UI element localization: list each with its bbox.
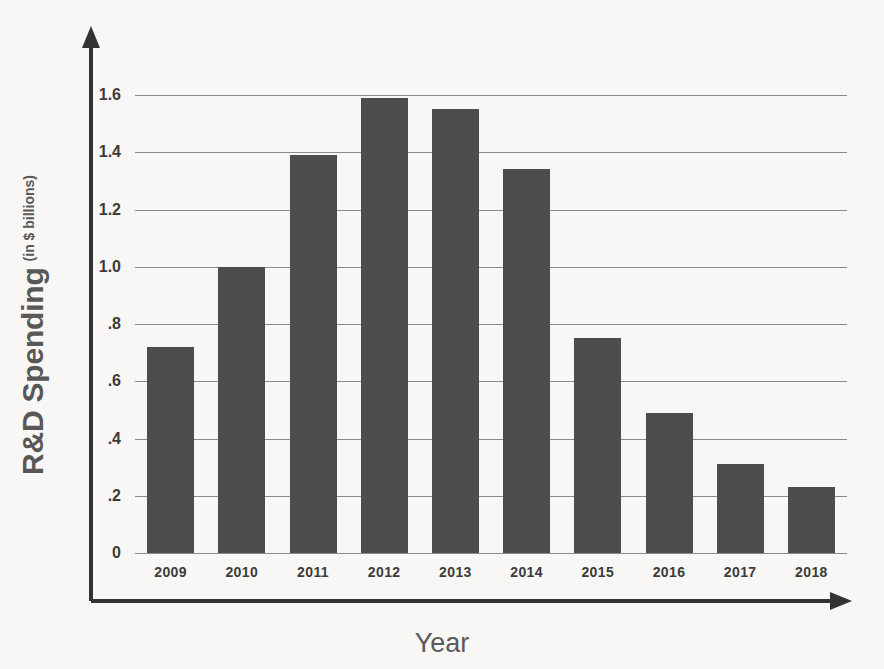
bar xyxy=(218,267,265,553)
bar xyxy=(646,413,693,553)
x-axis-tick-label: 2015 xyxy=(581,564,614,580)
x-axis-tick-label: 2010 xyxy=(225,564,258,580)
bar-chart: R&D Spending (in $ billions) 0.2.4.6.81.… xyxy=(0,0,884,669)
y-axis-tick-label: 1.2 xyxy=(99,201,121,219)
plot-area: 0.2.4.6.81.01.21.41.62009201020112012201… xyxy=(135,95,847,553)
x-axis-tick-label: 2011 xyxy=(297,564,329,580)
bar xyxy=(361,98,408,553)
bar xyxy=(503,169,550,553)
y-axis-tick-label: .2 xyxy=(108,487,121,505)
gridline xyxy=(135,553,847,554)
x-axis-tick-label: 2009 xyxy=(154,564,187,580)
bar xyxy=(290,155,337,553)
gridline xyxy=(135,152,847,153)
y-axis-tick-label: 1.6 xyxy=(99,86,121,104)
gridline xyxy=(135,210,847,211)
y-axis-tick-label: .8 xyxy=(108,315,121,333)
bar xyxy=(717,464,764,553)
y-axis-tick-label: 1.0 xyxy=(99,258,121,276)
bar xyxy=(432,109,479,553)
x-axis-tick-label: 2016 xyxy=(653,564,686,580)
bar xyxy=(147,347,194,553)
x-axis-tick-label: 2012 xyxy=(368,564,401,580)
x-axis-arrowhead xyxy=(830,592,852,610)
y-axis-tick-label: 0 xyxy=(112,544,121,562)
y-axis-arrowhead xyxy=(82,26,100,48)
gridline xyxy=(135,95,847,96)
x-axis-tick-label: 2017 xyxy=(724,564,757,580)
x-axis-tick-label: 2018 xyxy=(795,564,828,580)
bar xyxy=(574,338,621,553)
bar xyxy=(788,487,835,553)
y-axis-tick-label: .4 xyxy=(108,430,121,448)
y-axis-tick-label: 1.4 xyxy=(99,143,121,161)
y-axis-tick-label: .6 xyxy=(108,372,121,390)
x-axis-title: Year xyxy=(0,628,884,659)
x-axis-tick-label: 2013 xyxy=(439,564,472,580)
x-axis-tick-label: 2014 xyxy=(510,564,543,580)
